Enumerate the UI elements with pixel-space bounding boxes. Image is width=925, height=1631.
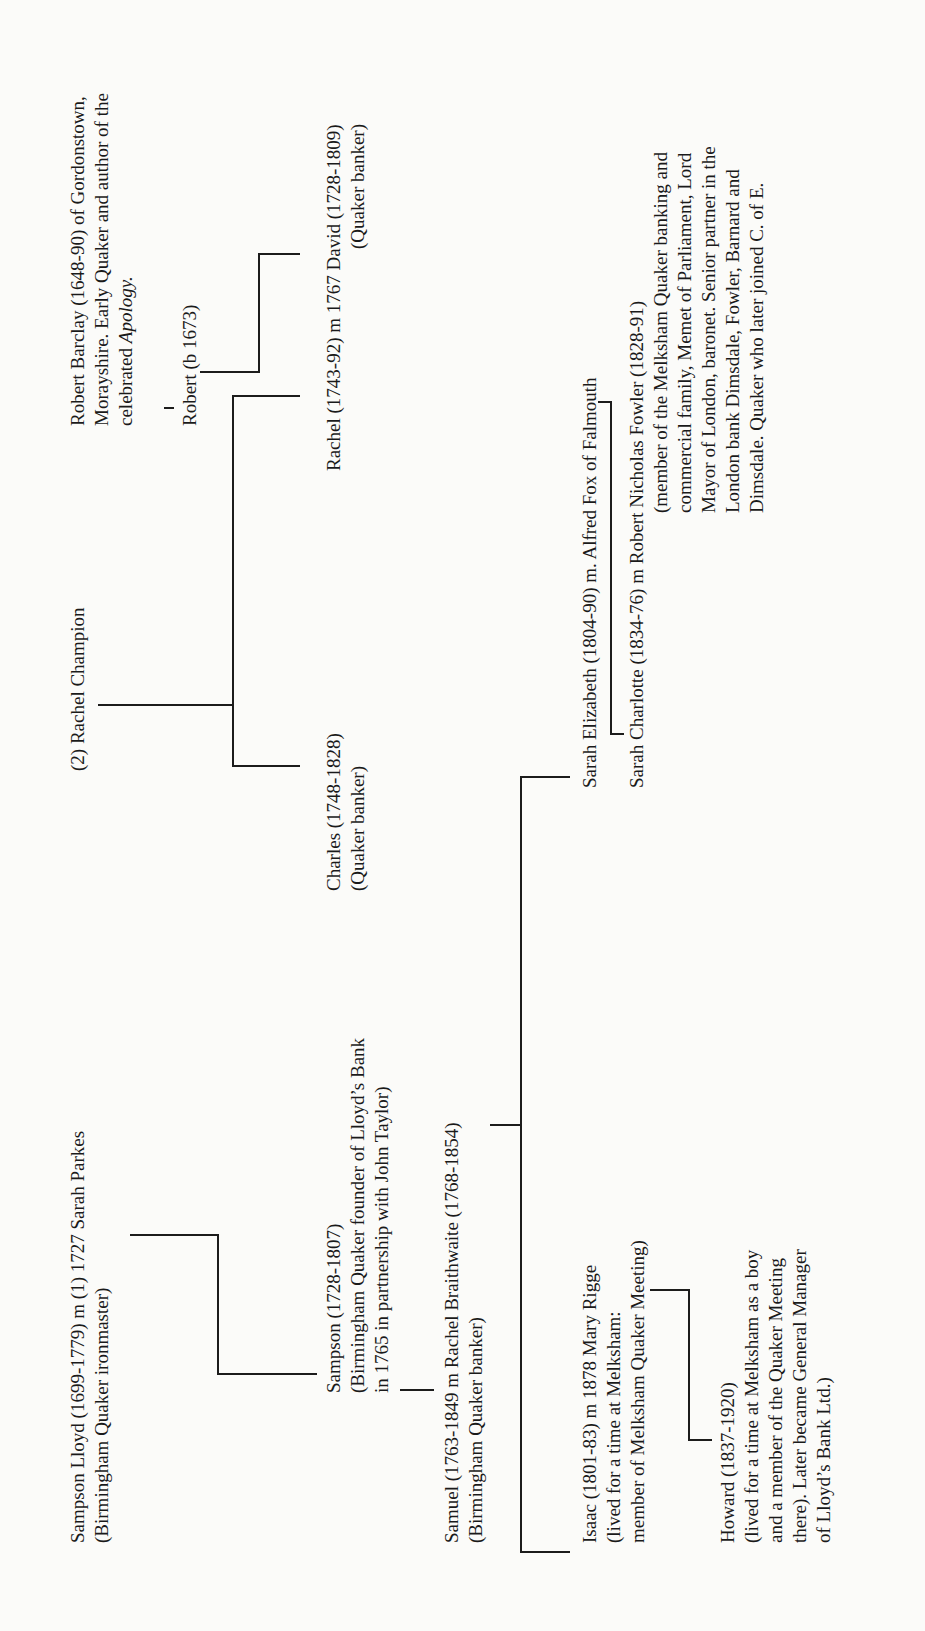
person-rachel-david: Rachel (1743-92) m 1767 David (1728-1809… xyxy=(322,124,370,471)
connector-samuel-children xyxy=(520,776,522,1553)
person-robert-barclay: Robert Barclay (1648-90) of Gordonstown,… xyxy=(66,93,138,426)
person-robert-b1673: Robert (b 1673) xyxy=(178,305,202,426)
robert-barclay-note-2: celebrated Apology. xyxy=(114,93,138,426)
connector-to-rachel xyxy=(232,395,300,397)
fowler-note-2: commercial family, Memet of Parliament, … xyxy=(673,146,697,788)
connector-to-sampson-1728 xyxy=(217,1373,317,1375)
howard-note-2: and a member of the Quaker Meeting xyxy=(764,1249,788,1543)
connector-to-isaac xyxy=(520,1551,570,1553)
sampson-1728-name: Sampson (1728-1807) xyxy=(322,1038,346,1393)
person-sampson-1728: Sampson (1728-1807) (Birmingham Quaker f… xyxy=(322,1038,394,1393)
connector-barclay-son xyxy=(164,407,174,409)
samuel-note: (Birmingham Quaker banker) xyxy=(464,1122,488,1543)
connector-to-charles xyxy=(232,765,300,767)
connector-lloyd-down xyxy=(130,1234,218,1236)
sarah-charlotte-name: Sarah Charlotte (1834-76) m Robert Nicho… xyxy=(625,146,649,788)
fowler-note-5: Dimsdale. Quaker who later joined C. of … xyxy=(745,146,769,788)
document-page: Sampson Lloyd (1699-1779) m (1) 1727 Sar… xyxy=(0,0,925,1631)
connector-robert-down xyxy=(200,371,258,373)
isaac-note-2: member of Melksham Quaker Meeting) xyxy=(626,1240,650,1543)
robert-barclay-name: Robert Barclay (1648-90) of Gordonstown, xyxy=(66,93,90,426)
rachel-champion-name: (2) Rachel Champion xyxy=(66,607,90,771)
connector-to-sarah-charlotte xyxy=(610,733,624,735)
david-note: (Quaker banker) xyxy=(346,124,370,471)
connector-champion-children xyxy=(232,395,234,767)
fowler-note-4: London bank Dimsdale, Fowler, Barnard an… xyxy=(721,146,745,788)
connector-isaac-across xyxy=(688,1289,690,1441)
connector-to-samuel xyxy=(400,1389,434,1391)
person-charles: Charles (1748-1828) (Quaker banker) xyxy=(322,733,370,891)
connector-samuel-down xyxy=(490,1124,522,1126)
connector-lloyd-across xyxy=(217,1234,219,1375)
connector-fox-across xyxy=(610,401,612,735)
charles-note: (Quaker banker) xyxy=(346,733,370,891)
sampson-lloyd-note: (Birmingham Quaker ironmaster) xyxy=(90,1131,114,1543)
rachel-david-name: Rachel (1743-92) m 1767 David (1728-1809… xyxy=(322,124,346,471)
isaac-note: (lived for a time at Melksham: xyxy=(602,1240,626,1543)
fowler-note-1: (member of the Melksham Quaker banking a… xyxy=(649,146,673,788)
person-howard: Howard (1837-1920) (lived for a time at … xyxy=(716,1249,836,1543)
samuel-name: Samuel (1763-1849 m Rachel Braithwaite (… xyxy=(440,1122,464,1543)
connector-champion-down xyxy=(98,704,234,706)
person-rachel-champion: (2) Rachel Champion xyxy=(66,607,90,771)
connector-to-sarah-elizabeth xyxy=(520,776,570,778)
sarah-elizabeth-name: Sarah Elizabeth (1804-90) m. Alfred Fox … xyxy=(578,377,602,788)
person-sarah-charlotte: Sarah Charlotte (1834-76) m Robert Nicho… xyxy=(625,146,769,788)
robert-barclay-note: Morayshire. Early Quaker and author of t… xyxy=(90,93,114,426)
person-isaac: Isaac (1801-83) m 1878 Mary Rigge (lived… xyxy=(578,1240,650,1543)
charles-name: Charles (1748-1828) xyxy=(322,733,346,891)
apology-title: Apology. xyxy=(115,276,136,343)
howard-note-4: of Lloyd’s Bank Ltd.) xyxy=(812,1249,836,1543)
sampson-1728-note: (Birmingham Quaker founder of Lloyd’s Ba… xyxy=(346,1038,370,1393)
connector-to-howard xyxy=(688,1439,712,1441)
sampson-lloyd-name: Sampson Lloyd (1699-1779) m (1) 1727 Sar… xyxy=(66,1131,90,1543)
person-samuel: Samuel (1763-1849 m Rachel Braithwaite (… xyxy=(440,1122,488,1543)
sampson-1728-note-2: in 1765 in partnership with John Taylor) xyxy=(370,1038,394,1393)
howard-note: (lived for a time at Melksham as a boy xyxy=(740,1249,764,1543)
connector-robert-across xyxy=(258,253,260,373)
person-sampson-lloyd: Sampson Lloyd (1699-1779) m (1) 1727 Sar… xyxy=(66,1131,114,1543)
person-sarah-elizabeth: Sarah Elizabeth (1804-90) m. Alfred Fox … xyxy=(578,377,602,788)
connector-fox-down xyxy=(598,401,610,403)
howard-note-3: there). Later became General Manager xyxy=(788,1249,812,1543)
robert-b1673-name: Robert (b 1673) xyxy=(178,305,202,426)
isaac-name: Isaac (1801-83) m 1878 Mary Rigge xyxy=(578,1240,602,1543)
connector-to-david xyxy=(258,253,300,255)
fowler-note-3: Mayor of London, baronet. Senior partner… xyxy=(697,146,721,788)
connector-isaac-down xyxy=(650,1289,690,1291)
howard-name: Howard (1837-1920) xyxy=(716,1249,740,1543)
